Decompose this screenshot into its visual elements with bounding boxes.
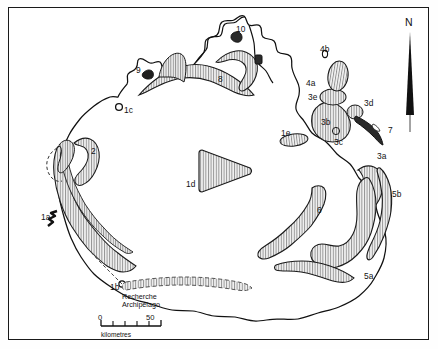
region-label-3c: 3c xyxy=(334,138,343,146)
region-label-6: 6 xyxy=(317,206,322,214)
north-arrow-letter: N xyxy=(405,16,413,28)
region-label-9: 9 xyxy=(136,66,141,74)
scale-bar-unit-label: kilometres xyxy=(101,331,131,338)
region-3e xyxy=(320,89,346,105)
north-arrow-icon xyxy=(406,32,414,132)
region-label-1a: 1a xyxy=(41,213,50,221)
region-label-3b: 3b xyxy=(321,118,330,126)
region-4a xyxy=(326,60,350,93)
region-label-1d: 1d xyxy=(186,180,195,188)
region-label-4b: 4b xyxy=(320,45,329,53)
region-1b-band xyxy=(122,277,252,291)
region-label-7: 7 xyxy=(388,126,393,134)
region-label-2: 2 xyxy=(91,147,96,155)
region-label-1c: 1c xyxy=(124,106,133,114)
region-label-10: 10 xyxy=(236,25,245,33)
scale-bar-max-label: 50 xyxy=(146,313,154,322)
region-label-8: 8 xyxy=(218,75,223,83)
region-3b xyxy=(312,102,351,142)
region-label-4a: 4a xyxy=(306,79,315,87)
region-1c-marker xyxy=(116,104,123,111)
region-label-5b: 5b xyxy=(392,190,401,198)
map-figure: 1a1b1c1d1e23a3b3c3d3e4a4b5a5b678910 N 0 … xyxy=(0,0,438,349)
region-label-3e: 3e xyxy=(308,93,317,101)
region-10b-marker xyxy=(255,55,262,64)
australia-map-graphic xyxy=(0,0,438,349)
recherche-archipelago-label-line2: Archipelago xyxy=(122,300,160,309)
region-label-1e: 1e xyxy=(281,129,290,137)
region-label-5a: 5a xyxy=(364,272,373,280)
region-2-lobe xyxy=(58,140,75,173)
scale-bar-min-label: 0 xyxy=(98,313,102,322)
region-label-1b: 1b xyxy=(110,283,119,291)
region-3c xyxy=(332,127,339,134)
region-label-3a: 3a xyxy=(377,152,386,160)
region-label-3d: 3d xyxy=(364,99,373,107)
region-9 xyxy=(142,70,153,79)
region-8 xyxy=(139,65,254,96)
region-1d xyxy=(199,150,252,192)
